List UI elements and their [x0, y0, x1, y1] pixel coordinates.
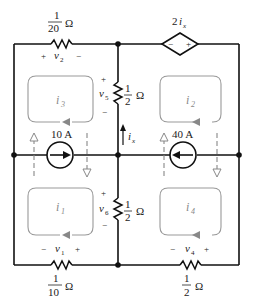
v2-sub: 2 [60, 56, 64, 64]
resistor-center-lower: 1 2 Ω + v 6 − [99, 188, 144, 230]
mesh-i2-arrow-icon [192, 118, 200, 126]
v6-label: v [99, 202, 104, 214]
r-bottom-right-den: 2 [184, 286, 190, 298]
mesh-i1-label: i [56, 200, 59, 214]
resistor-bottom-right: − v 4 + 1 2 Ω [170, 242, 209, 298]
dashed-arrow-down-icon [83, 169, 91, 177]
v1-minus: − [41, 244, 46, 254]
dep-coef: 2 [172, 15, 178, 27]
ix-current-arrow: i x [120, 124, 136, 145]
resistor-top-left: 1 20 Ω + v 2 − [41, 9, 81, 64]
ix-label: i [128, 130, 131, 142]
mesh-i2-sub: 2 [191, 100, 195, 109]
v2-plus: + [41, 51, 46, 61]
r-top-left-num: 1 [54, 9, 60, 21]
dashed-arrow-down-icon [213, 169, 221, 177]
v1-plus: + [75, 244, 80, 254]
r-bottom-left-num: 1 [53, 272, 59, 284]
mesh-i3-arrow-icon [62, 118, 70, 126]
mesh-i1-arrow-icon [62, 231, 70, 239]
r-center-lower-num: 1 [125, 198, 131, 210]
dashed-arrow-up-icon [160, 133, 168, 141]
source-40a-label: 40 A [172, 128, 193, 140]
dep-sub: x [182, 22, 187, 30]
v5-sub: 5 [105, 94, 109, 102]
r-top-left-den: 20 [48, 22, 60, 34]
r-bottom-right-unit: Ω [195, 280, 203, 292]
current-source-10a: 10 A [47, 128, 73, 168]
v2-label: v [54, 49, 59, 61]
v5-plus: + [101, 74, 106, 84]
r-center-upper-den: 2 [125, 95, 131, 107]
v4-sub: 4 [191, 249, 195, 257]
current-source-40a: 40 A [170, 128, 196, 168]
resistor-center-upper: 1 2 Ω + v 5 − [99, 74, 144, 117]
r-center-lower-unit: Ω [136, 205, 144, 217]
mesh-i1-sub: 1 [61, 207, 65, 216]
mesh-i2-label: i [186, 93, 189, 107]
dep-plus: + [186, 39, 191, 49]
v1-label: v [55, 242, 60, 254]
v4-label: v [185, 242, 190, 254]
mesh-i3-sub: 3 [60, 100, 65, 109]
r-center-upper-unit: Ω [136, 89, 144, 101]
source-10a-label: 10 A [51, 128, 72, 140]
v5-label: v [99, 87, 104, 99]
r-center-lower-den: 2 [125, 211, 131, 223]
v6-minus: − [102, 220, 107, 230]
v4-minus: − [170, 244, 175, 254]
v1-sub: 1 [61, 249, 65, 257]
v5-minus: − [102, 107, 107, 117]
v6-sub: 6 [105, 209, 109, 217]
circuit-diagram: 1 20 Ω + v 2 − − + 2 i x 1 2 Ω + v 5 − i… [0, 0, 253, 307]
dashed-arrow-up-icon [30, 133, 38, 141]
v4-plus: + [204, 244, 209, 254]
r-bottom-left-den: 10 [48, 286, 60, 298]
mesh-i4-label: i [186, 200, 189, 214]
mesh-i3-label: i [56, 93, 59, 107]
r-bottom-right-num: 1 [184, 272, 190, 284]
mesh-i4-sub: 4 [191, 207, 195, 216]
dep-minus: − [168, 39, 173, 49]
r-center-upper-num: 1 [125, 82, 131, 94]
r-top-left-unit: Ω [65, 17, 73, 29]
ix-sub: x [131, 137, 136, 145]
dep-var: i [179, 15, 182, 27]
v6-plus: + [101, 188, 106, 198]
resistor-bottom-left: − v 1 + 1 10 Ω [41, 242, 80, 298]
r-bottom-left-unit: Ω [65, 280, 73, 292]
dependent-voltage-source: − + 2 i x [162, 15, 198, 55]
mesh-i4-arrow-icon [192, 231, 200, 239]
v2-minus: − [76, 51, 81, 61]
